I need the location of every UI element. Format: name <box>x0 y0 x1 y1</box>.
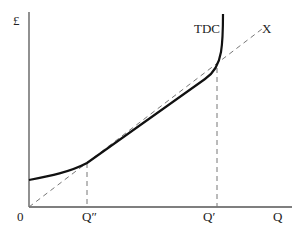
tdc-curve <box>29 14 223 180</box>
x-axis-label: Q <box>273 209 283 224</box>
tdc-diagram: £ TDC X 0 Q″ Q′ Q <box>0 0 305 235</box>
origin-label: 0 <box>17 209 24 224</box>
y-axis-label: £ <box>13 13 20 28</box>
q-prime-label: Q′ <box>203 209 215 224</box>
q-double-prime-label: Q″ <box>82 209 97 224</box>
curve-label: TDC <box>194 21 220 36</box>
ray-0x <box>29 29 262 207</box>
ray-label: X <box>262 21 272 36</box>
